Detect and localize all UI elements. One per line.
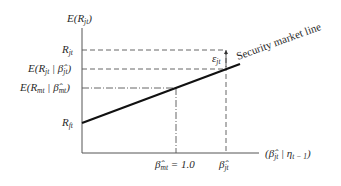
security-market-line-label: Security market line [235, 20, 323, 62]
error-label: εjt [212, 52, 221, 66]
error-arrow-head [224, 50, 228, 54]
x-tick-beta-jt: β̂jt [218, 158, 230, 172]
x-axis-label: (β̂jt | ηt − 1) [265, 147, 311, 161]
x-tick-beta-mt: β̂mt = 1.0 [154, 158, 195, 172]
y-tick-rjt: Rjt [61, 43, 74, 57]
y-tick-rft: Rft [61, 116, 74, 130]
security-market-line [82, 64, 240, 123]
y-axis-label: E(Rjt) [66, 12, 92, 26]
security-market-line-diagram: E(Rjt) Rjt E(Rjt | β̂jt) E(Rmt | β̂mt) R… [0, 0, 341, 186]
y-tick-expected-rjt: E(Rjt | β̂jt) [27, 62, 71, 76]
y-tick-market-return: E(Rmt | β̂mt) [19, 81, 70, 95]
